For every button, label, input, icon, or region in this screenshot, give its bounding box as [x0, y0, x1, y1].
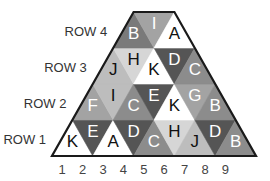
column-label: 2	[79, 162, 86, 177]
cell-letter: J	[191, 132, 200, 151]
cell-letter: E	[148, 86, 159, 105]
cell-letter: K	[148, 60, 160, 79]
cell-letter: J	[109, 60, 118, 79]
cell-letter: D	[127, 122, 139, 141]
column-labels: 123456789	[59, 162, 229, 177]
row-label: ROW 2	[24, 96, 67, 111]
row-label: ROW 4	[65, 24, 108, 39]
triangle-puzzle: KEADCHJDBFICEKGBJHKDCBIA ROW 1ROW 2ROW 3…	[0, 0, 270, 181]
column-label: 4	[120, 162, 127, 177]
cell-letter: B	[128, 24, 139, 43]
column-label: 6	[161, 162, 168, 177]
cell-letter: B	[210, 96, 221, 115]
cell-letter: A	[169, 24, 181, 43]
cell-letter: H	[168, 122, 180, 141]
cell-letter: C	[148, 132, 160, 151]
row-label: ROW 1	[3, 132, 46, 147]
cell-letter: F	[88, 96, 98, 115]
cell-letter: A	[108, 132, 120, 151]
row-label: ROW 3	[44, 60, 87, 75]
cell-letter: I	[152, 14, 157, 33]
cell-letter: C	[127, 96, 139, 115]
column-label: 9	[222, 162, 229, 177]
cell-letter: B	[230, 132, 241, 151]
cell-letter: E	[87, 122, 98, 141]
cell-letter: I	[111, 86, 116, 105]
cell-letter: G	[188, 86, 201, 105]
cell-letter: K	[67, 132, 79, 151]
cell-letter: D	[209, 122, 221, 141]
cell-letter: C	[189, 60, 201, 79]
column-label: 5	[140, 162, 147, 177]
column-label: 7	[181, 162, 188, 177]
column-label: 3	[99, 162, 106, 177]
cell-letter: K	[169, 96, 181, 115]
cell-letter: D	[168, 50, 180, 69]
cell-letter: H	[127, 50, 139, 69]
column-label: 8	[201, 162, 208, 177]
column-label: 1	[59, 162, 66, 177]
